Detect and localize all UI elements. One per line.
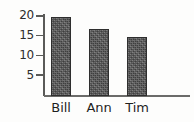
y-tick-label: 5 bbox=[4, 69, 34, 81]
x-label-tim: Tim bbox=[115, 101, 159, 114]
bar-tim[interactable] bbox=[127, 37, 147, 96]
bar-chart: 2015105 BillAnnTim bbox=[0, 0, 194, 122]
y-tick-label: 20 bbox=[4, 9, 34, 21]
bar-bill[interactable] bbox=[51, 17, 71, 96]
y-tick-label: 15 bbox=[4, 29, 34, 41]
y-tick-mark bbox=[36, 55, 44, 57]
bar-ann[interactable] bbox=[89, 29, 109, 96]
plot-area bbox=[44, 12, 190, 96]
y-tick-mark bbox=[36, 74, 44, 76]
y-tick-label: 10 bbox=[4, 49, 34, 61]
y-tick-mark bbox=[36, 35, 44, 37]
y-tick-mark bbox=[36, 15, 44, 17]
